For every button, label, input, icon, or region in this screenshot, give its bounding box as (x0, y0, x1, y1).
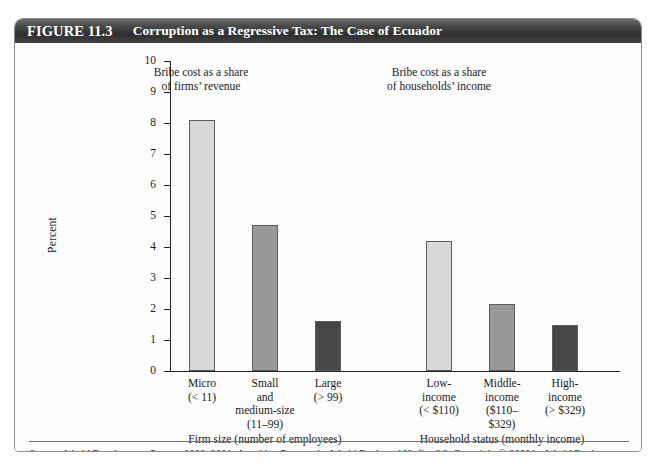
y-tick (164, 154, 171, 155)
source-divider (29, 441, 629, 442)
bar (552, 325, 578, 372)
y-axis-label: Percent (46, 190, 58, 280)
figure-header: FIGURE 11.3 Corruption as a Regressive T… (15, 19, 641, 43)
figure-caption: Corruption as a Regressive Tax: The Case… (133, 23, 442, 39)
source-note: Source: World Development Report, 2000–2… (29, 447, 629, 452)
group-title: Bribe cost as a shareof firms’ revenue (101, 65, 301, 93)
bar-chart: Percent 012345678910 Bribe cost as a sha… (15, 43, 642, 441)
category-label: High-income(> $329) (518, 377, 612, 418)
bar (189, 120, 215, 371)
y-tick (164, 278, 171, 279)
y-tick-label: 3 (132, 272, 156, 284)
bar (426, 241, 452, 371)
source-lead: Source: (29, 448, 64, 452)
y-tick (164, 340, 171, 341)
bar (489, 304, 515, 371)
bar (315, 321, 341, 371)
axis-title: Household status (monthly income) (372, 433, 632, 445)
bar (252, 225, 278, 371)
y-tick-label: 2 (132, 303, 156, 315)
axis-title: Firm size (number of employees) (135, 433, 395, 445)
y-tick-label: 6 (132, 179, 156, 191)
y-tick-label: 1 (132, 334, 156, 346)
x-axis-line (170, 371, 620, 372)
y-tick-label: 7 (132, 148, 156, 160)
y-tick (164, 247, 171, 248)
figure-box: FIGURE 11.3 Corruption as a Regressive T… (14, 18, 642, 452)
y-tick (164, 309, 171, 310)
y-tick-label: 0 (132, 365, 156, 377)
y-tick (164, 61, 171, 62)
source-title: World Development Report, 2000–2001: Att… (64, 448, 312, 452)
y-tick-label: 8 (132, 117, 156, 129)
figure-body: Percent 012345678910 Bribe cost as a sha… (15, 43, 641, 452)
y-tick (164, 123, 171, 124)
y-tick (164, 185, 171, 186)
group-title: Bribe cost as a shareof households’ inco… (339, 65, 539, 93)
y-tick-label: 5 (132, 210, 156, 222)
y-tick (164, 371, 171, 372)
y-tick-label: 4 (132, 241, 156, 253)
y-tick (164, 216, 171, 217)
category-label: Large(> 99) (281, 377, 375, 404)
figure-number: FIGURE 11.3 (27, 23, 113, 40)
